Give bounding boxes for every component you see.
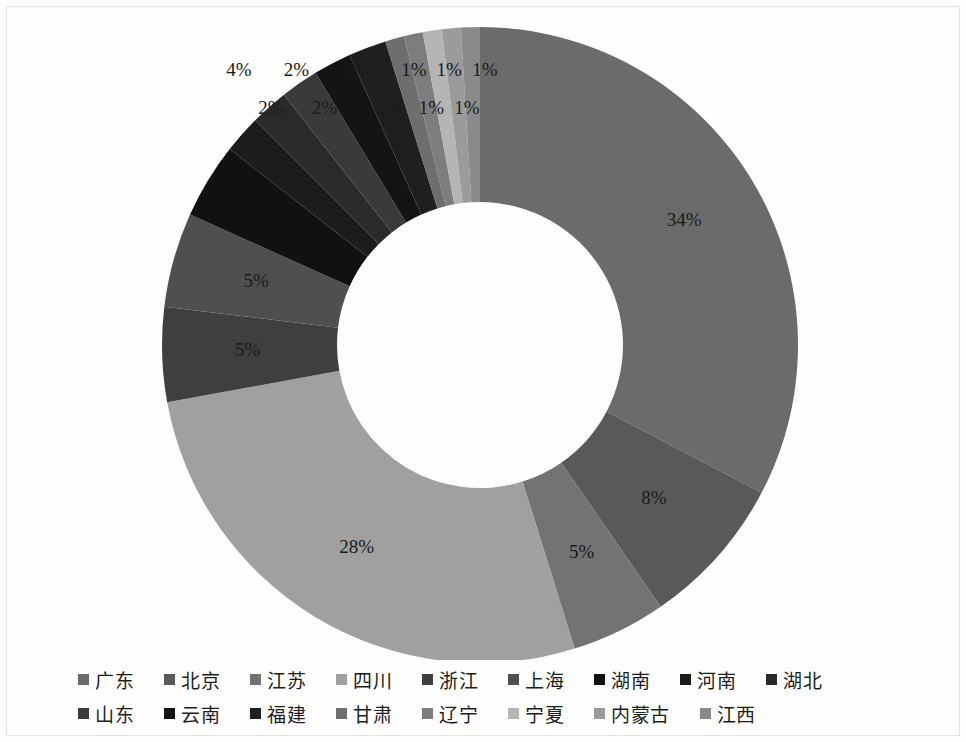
slice-percent-label: 28% bbox=[339, 536, 374, 557]
slice-percent-label: 5% bbox=[243, 270, 269, 291]
legend-item-label: 四川 bbox=[353, 666, 392, 693]
legend-color-swatch bbox=[164, 674, 175, 685]
slice-percent-label: 1% bbox=[419, 97, 445, 118]
legend-item[interactable]: 北京 bbox=[164, 666, 220, 693]
legend-item[interactable]: 宁夏 bbox=[508, 700, 564, 727]
chart-legend: 广东北京江苏四川浙江上海湖南河南湖北 山东云南福建甘肃辽宁宁夏内蒙古江西 bbox=[0, 662, 966, 742]
legend-item[interactable]: 山东 bbox=[78, 700, 134, 727]
legend-item-label: 上海 bbox=[525, 666, 564, 693]
donut-slice[interactable] bbox=[167, 371, 574, 660]
slice-percent-label: 8% bbox=[641, 487, 667, 508]
legend-item[interactable]: 上海 bbox=[508, 666, 564, 693]
slice-percent-label: 2% bbox=[258, 97, 284, 118]
legend-item-label: 广东 bbox=[95, 666, 134, 693]
legend-item-label: 河南 bbox=[697, 666, 736, 693]
legend-item[interactable]: 湖南 bbox=[594, 666, 650, 693]
legend-color-swatch bbox=[594, 674, 605, 685]
legend-item-label: 湖南 bbox=[611, 666, 650, 693]
legend-color-swatch bbox=[680, 674, 691, 685]
chart-page: 34%8%5%28%5%5%4%2%2%2%2%2%1%1%1%1%1% 广东北… bbox=[0, 0, 966, 742]
legend-color-swatch bbox=[508, 674, 519, 685]
legend-color-swatch bbox=[250, 708, 261, 719]
slice-percent-label: 34% bbox=[667, 209, 702, 230]
donut-slice[interactable] bbox=[480, 27, 798, 493]
slice-percent-label: 2% bbox=[284, 59, 310, 80]
legend-color-swatch bbox=[336, 708, 347, 719]
legend-item[interactable]: 浙江 bbox=[422, 666, 478, 693]
legend-item-label: 宁夏 bbox=[525, 700, 564, 727]
legend-item-label: 江苏 bbox=[267, 666, 306, 693]
slice-percent-label: 1% bbox=[401, 59, 427, 80]
legend-item[interactable]: 辽宁 bbox=[422, 700, 478, 727]
slice-percent-label: 1% bbox=[436, 59, 462, 80]
legend-item[interactable]: 江苏 bbox=[250, 666, 306, 693]
legend-item-label: 北京 bbox=[181, 666, 220, 693]
donut-chart: 34%8%5%28%5%5%4%2%2%2%2%2%1%1%1%1%1% bbox=[0, 0, 966, 660]
legend-color-swatch bbox=[164, 708, 175, 719]
legend-item[interactable]: 江西 bbox=[700, 700, 756, 727]
legend-color-swatch bbox=[508, 708, 519, 719]
slice-percent-label: 5% bbox=[235, 339, 261, 360]
slice-percent-label: 2% bbox=[343, 59, 369, 80]
legend-row-1: 广东北京江苏四川浙江上海湖南河南湖北 bbox=[78, 662, 946, 696]
slice-percent-label: 2% bbox=[376, 97, 402, 118]
legend-color-swatch bbox=[78, 674, 89, 685]
legend-item-label: 浙江 bbox=[439, 666, 478, 693]
legend-item[interactable]: 云南 bbox=[164, 700, 220, 727]
slice-percent-label: 1% bbox=[472, 59, 498, 80]
legend-item[interactable]: 内蒙古 bbox=[594, 700, 670, 727]
legend-item-label: 福建 bbox=[267, 700, 306, 727]
slice-percent-label: 1% bbox=[454, 97, 480, 118]
legend-item[interactable]: 甘肃 bbox=[336, 700, 392, 727]
legend-item-label: 甘肃 bbox=[353, 700, 392, 727]
legend-item-label: 内蒙古 bbox=[611, 700, 670, 727]
legend-item[interactable]: 广东 bbox=[78, 666, 134, 693]
slice-percent-label: 4% bbox=[226, 59, 252, 80]
slice-percent-label: 5% bbox=[569, 541, 595, 562]
legend-color-swatch bbox=[766, 674, 777, 685]
legend-color-swatch bbox=[594, 708, 605, 719]
legend-item[interactable]: 河南 bbox=[680, 666, 736, 693]
legend-color-swatch bbox=[336, 674, 347, 685]
legend-item-label: 辽宁 bbox=[439, 700, 478, 727]
legend-row-2: 山东云南福建甘肃辽宁宁夏内蒙古江西 bbox=[78, 696, 946, 730]
legend-item-label: 湖北 bbox=[783, 666, 822, 693]
legend-color-swatch bbox=[422, 708, 433, 719]
legend-color-swatch bbox=[700, 708, 711, 719]
legend-item-label: 山东 bbox=[95, 700, 134, 727]
legend-color-swatch bbox=[250, 674, 261, 685]
slice-percent-label: 2% bbox=[312, 97, 338, 118]
legend-item[interactable]: 四川 bbox=[336, 666, 392, 693]
legend-item[interactable]: 福建 bbox=[250, 700, 306, 727]
legend-color-swatch bbox=[78, 708, 89, 719]
legend-item-label: 云南 bbox=[181, 700, 220, 727]
legend-item-label: 江西 bbox=[717, 700, 756, 727]
donut-chart-svg: 34%8%5%28%5%5%4%2%2%2%2%2%1%1%1%1%1% bbox=[0, 0, 966, 660]
legend-item[interactable]: 湖北 bbox=[766, 666, 822, 693]
legend-color-swatch bbox=[422, 674, 433, 685]
